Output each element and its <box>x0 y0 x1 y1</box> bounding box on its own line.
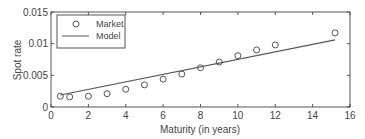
x-tick-label: 2 <box>86 110 92 121</box>
market-data-point <box>160 76 166 82</box>
y-tick-label: 0 <box>42 102 48 113</box>
x-tick-label: 14 <box>307 110 319 121</box>
market-data-point <box>57 93 63 99</box>
legend-market-label: Market <box>96 19 124 29</box>
x-tick-label: 12 <box>270 110 282 121</box>
market-data-point <box>272 42 278 48</box>
market-data-point <box>123 86 129 92</box>
market-data-point <box>85 93 91 99</box>
market-data-point <box>235 53 241 59</box>
legend-model-label: Model <box>96 31 121 41</box>
market-data-point <box>104 91 110 97</box>
x-tick-label: 0 <box>48 110 54 121</box>
y-tick-label: 0.01 <box>29 38 49 49</box>
spot-rate-chart: 024681012141600.0050.010.015 Market Mode… <box>0 0 365 139</box>
market-data-point <box>254 47 260 53</box>
market-data-point <box>179 71 185 77</box>
x-tick-label: 10 <box>232 110 244 121</box>
y-tick-label: 0.005 <box>23 70 48 81</box>
x-tick-label: 16 <box>344 110 356 121</box>
market-data-point <box>332 30 338 36</box>
market-data-point <box>67 94 73 100</box>
x-axis-label: Maturity (in years) <box>160 124 240 135</box>
x-tick-label: 4 <box>123 110 129 121</box>
x-tick-label: 8 <box>198 110 204 121</box>
y-axis-label: Spot rate <box>12 39 23 80</box>
market-data-point <box>141 82 147 88</box>
x-tick-label: 6 <box>160 110 166 121</box>
legend: Market Model <box>57 15 125 48</box>
y-tick-label: 0.015 <box>23 7 48 18</box>
market-data-point <box>216 59 222 65</box>
